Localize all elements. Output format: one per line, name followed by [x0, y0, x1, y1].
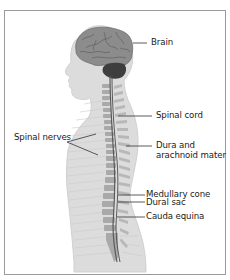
label-dura-line2: arachnoid mater: [156, 151, 226, 161]
label-spinal-cord: Spinal cord: [156, 111, 203, 121]
label-cauda-equina: Cauda equina: [146, 212, 204, 222]
label-dural-sac: Dural sac: [146, 198, 186, 208]
label-brain: Brain: [151, 38, 173, 48]
label-spinal-nerves: Spinal nerves: [14, 133, 71, 143]
